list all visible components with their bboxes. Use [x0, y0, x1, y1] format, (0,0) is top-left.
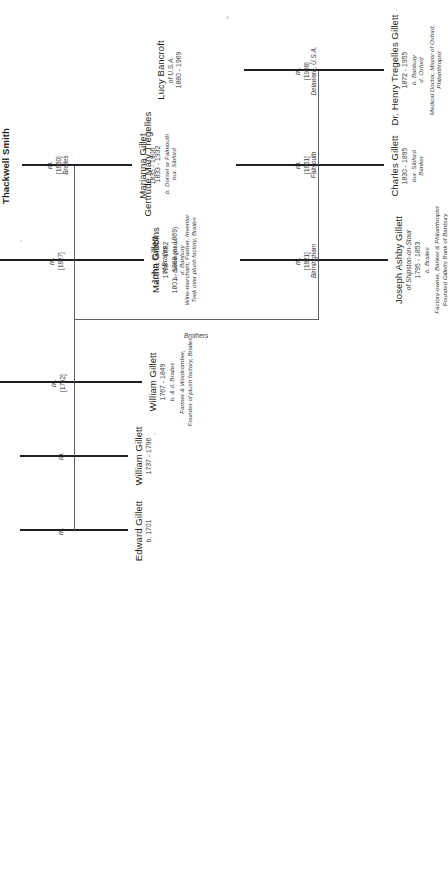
marriage-marianna-thackwell: m. [1860] Brailes [46, 146, 70, 184]
person-name: William Gillett [133, 392, 144, 520]
marriage-edward-mary: m. [57, 513, 66, 549]
marriage-henry-lucy: m. [1908] Delaware, U.S.A. [294, 42, 318, 100]
marriage-place: Birmingham [310, 242, 317, 280]
person-lucy-bancroft: Lucy Bancroft of U.S.A. 1880 - 1969 [155, 6, 183, 134]
chart-canvas: Edward Gillett b. 1701 Mary Tredwell of … [0, 0, 448, 880]
couple-bar-william-hannah [0, 381, 142, 383]
marriage-year: [1792] [59, 364, 66, 402]
marriage-symbol: m. [50, 364, 59, 402]
person-note: d. Banbury [178, 196, 185, 324]
marriage-place: Falmouth [310, 146, 317, 184]
person-note: d. Oxford [417, 0, 424, 150]
marriage-charles-gertrude: m. [1861] Falmouth [294, 146, 318, 184]
scan-speck [20, 240, 22, 242]
person-name: Dr. Henry Tregelles Gillett [389, 0, 400, 150]
marriage-year: [1821] [303, 242, 310, 280]
couple-bar-john-eliza [0, 259, 144, 261]
couple-bar-marianna-thackwell [22, 164, 132, 166]
descent-line-gen1 [74, 456, 75, 530]
descent-line-john-to-marianna [74, 165, 75, 260]
descent-line-joseph-to-charles [318, 165, 319, 260]
person-note: Founded Gilletts Bank of Banbury [441, 188, 448, 332]
person-note: Medical Doctor, Mayor of Oxford, [428, 0, 435, 150]
person-note: b. & d. Brailes [168, 318, 175, 446]
person-dates: 1880 - 1969 [175, 6, 183, 134]
marriage-symbol: m. [57, 438, 66, 474]
marriage-place: Delaware, U.S.A. [310, 42, 317, 100]
descent-line-charles-to-henry [318, 70, 319, 165]
sibling-branch-john [74, 260, 75, 320]
person-dates: 1872 - 1955 [401, 0, 409, 150]
person-thackwell-smith: Thackwell Smith [0, 102, 11, 230]
sibling-branch-joseph [318, 260, 319, 320]
descent-line-gen3 [74, 320, 75, 382]
marriage-year: [1908] [303, 42, 310, 100]
person-name: William Gillett [147, 318, 158, 446]
family-tree-chart: Edward Gillett b. 1701 Mary Tredwell of … [0, 0, 448, 880]
marriage-symbol: m. [294, 42, 303, 100]
marriage-william-hannah: m. [1792] [50, 364, 66, 402]
marriage-symbol: m. [46, 146, 55, 184]
person-note: Took over plush factory, Brailes [190, 192, 197, 328]
person-name: Thackwell Smith [0, 102, 11, 230]
marriage-place: Brailes [62, 146, 69, 184]
descent-line-gen2 [74, 382, 75, 456]
person-name: Gertrude Mary Tregelles [142, 86, 153, 242]
marriage-john-eliza: m. [1827] [48, 242, 64, 280]
person-note: Philanthropist [435, 0, 442, 150]
person-note: b. Banbury [410, 0, 417, 150]
person-henry-tregelles-gillett: Dr. Henry Tregelles Gillett 1872 - 1955 … [389, 0, 443, 150]
sibling-label: Brothers [184, 332, 208, 339]
scan-speck [226, 16, 229, 19]
person-name: Lucy Bancroft [155, 6, 166, 134]
marriage-william-mary: m. [57, 438, 66, 474]
marriage-symbol: m. [294, 146, 303, 184]
marriage-year: [1860] [55, 146, 62, 184]
person-dates: 1767 - 1849 [159, 318, 167, 446]
marriage-year: [1827] [57, 242, 64, 280]
marriage-joseph-martha: m. [1821] Birmingham [294, 242, 318, 280]
marriage-symbol: m. [294, 242, 303, 280]
person-origin: of U.S.A. [167, 6, 175, 134]
marriage-symbol: m. [48, 242, 57, 280]
marriage-year: [1861] [303, 146, 310, 184]
marriage-symbol: m. [57, 513, 66, 549]
person-note: Factory-owner, Banker & Philanthropist [433, 188, 440, 332]
